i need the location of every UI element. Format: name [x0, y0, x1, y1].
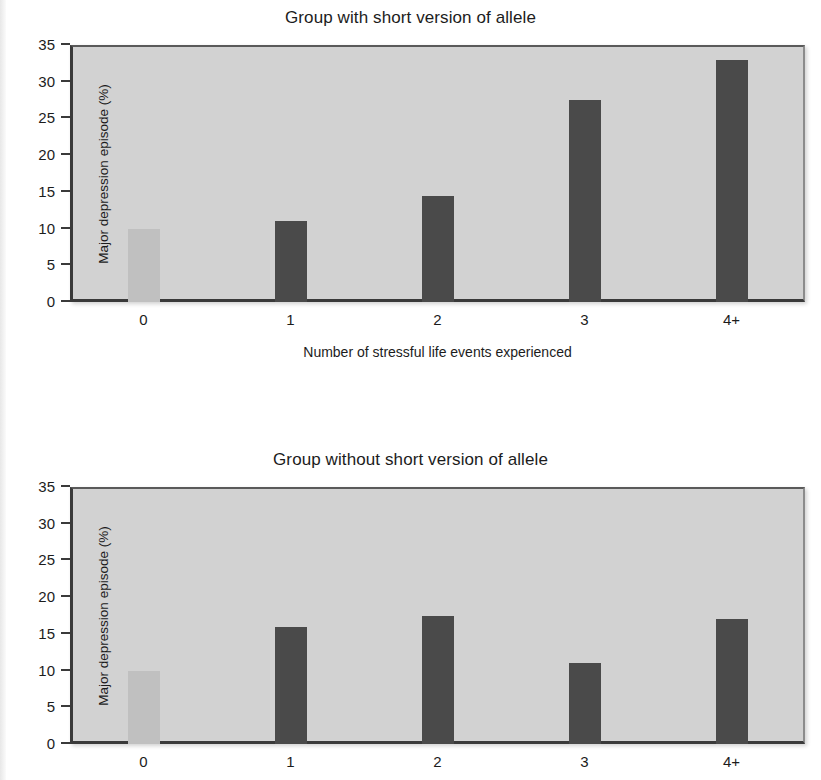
x-tick-label-4+: 4+: [723, 753, 740, 770]
y-tick-10: 10: [61, 669, 70, 671]
y-tick-label-15: 15: [38, 183, 55, 200]
y-tick-5: 5: [61, 263, 70, 265]
y-tick-label-20: 20: [38, 146, 55, 163]
bar-4+: [716, 60, 748, 302]
y-tick-20: 20: [61, 595, 70, 597]
x-tick-label-0: 0: [139, 311, 147, 328]
y-axis-title-bottom: Major depression episode (%): [96, 526, 111, 705]
y-tick-label-5: 5: [47, 256, 55, 273]
y-tick-0: 0: [61, 300, 70, 302]
y-tick-label-35: 35: [38, 478, 55, 495]
bar-1: [275, 221, 307, 302]
bar-0: [128, 671, 160, 744]
y-tick-15: 15: [61, 632, 70, 634]
x-tick-label-2: 2: [433, 311, 441, 328]
x-axis-title-top: Number of stressful life events experien…: [70, 344, 805, 360]
y-tick-35: 35: [61, 43, 70, 45]
x-tick-label-4+: 4+: [723, 311, 740, 328]
plot-wrapper-top: Major depression episode (%) 05101520253…: [70, 45, 805, 302]
x-tick-label-0: 0: [139, 753, 147, 770]
bar-1: [275, 627, 307, 744]
y-axis-title-top: Major depression episode (%): [96, 84, 111, 263]
y-tick-label-10: 10: [38, 220, 55, 237]
y-tick-5: 5: [61, 705, 70, 707]
plot-wrapper-bottom: Major depression episode (%) 05101520253…: [70, 487, 805, 744]
bar-3: [569, 663, 601, 744]
x-tick-label-2: 2: [433, 753, 441, 770]
y-tick-20: 20: [61, 153, 70, 155]
y-tick-label-10: 10: [38, 662, 55, 679]
bar-3: [569, 100, 601, 302]
bar-2: [422, 616, 454, 745]
y-tick-25: 25: [61, 116, 70, 118]
y-tick-30: 30: [61, 80, 70, 82]
bar-2: [422, 196, 454, 302]
y-tick-label-15: 15: [38, 625, 55, 642]
y-tick-label-5: 5: [47, 698, 55, 715]
y-tick-label-35: 35: [38, 36, 55, 53]
y-tick-label-25: 25: [38, 552, 55, 569]
y-tick-label-0: 0: [47, 735, 55, 752]
y-tick-label-25: 25: [38, 110, 55, 127]
x-tick-label-1: 1: [286, 311, 294, 328]
bar-4+: [716, 619, 748, 744]
x-tick-label-1: 1: [286, 753, 294, 770]
y-tick-10: 10: [61, 227, 70, 229]
y-tick-30: 30: [61, 522, 70, 524]
y-tick-label-20: 20: [38, 588, 55, 605]
y-tick-15: 15: [61, 190, 70, 192]
y-tick-label-30: 30: [38, 515, 55, 532]
y-tick-label-0: 0: [47, 293, 55, 310]
y-tick-35: 35: [61, 485, 70, 487]
chart-panel-group-with-short-allele: Group with short version of allele Major…: [0, 0, 821, 390]
bar-0: [128, 229, 160, 302]
x-tick-label-3: 3: [580, 311, 588, 328]
y-tick-label-30: 30: [38, 73, 55, 90]
y-tick-25: 25: [61, 558, 70, 560]
chart-title-bottom: Group without short version of allele: [0, 450, 821, 470]
x-tick-label-3: 3: [580, 753, 588, 770]
y-tick-0: 0: [61, 742, 70, 744]
chart-panel-group-without-short-allele: Group without short version of allele Ma…: [0, 390, 821, 780]
chart-title-top: Group with short version of allele: [0, 8, 821, 28]
